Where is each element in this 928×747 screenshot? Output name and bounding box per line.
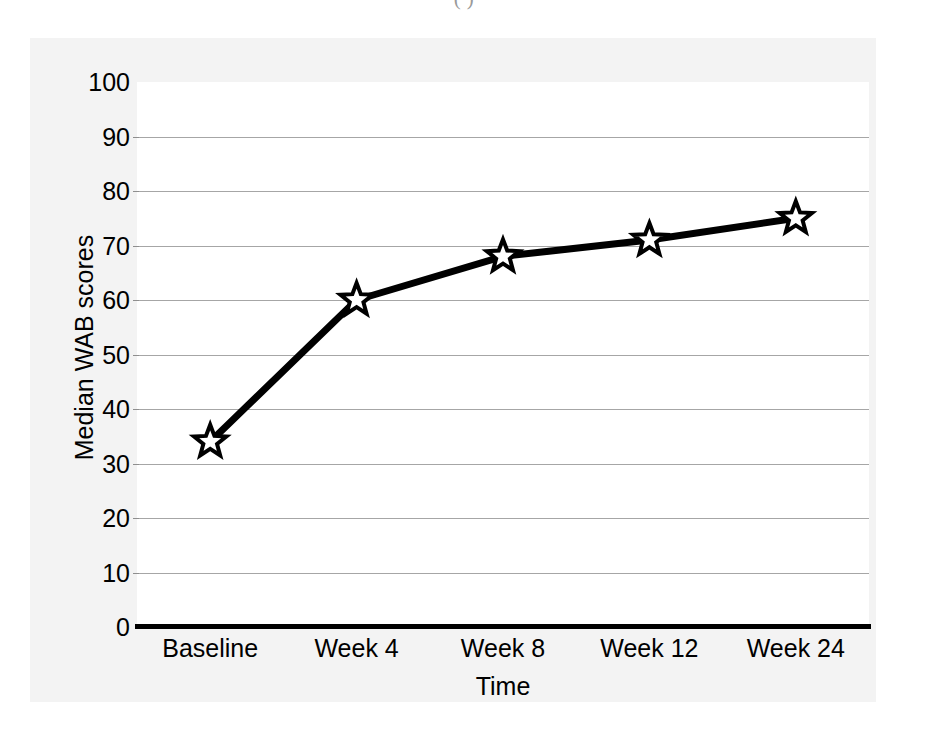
y-axis-tick-mark xyxy=(133,137,139,138)
gridline xyxy=(137,137,869,138)
gridline xyxy=(137,246,869,247)
y-axis-tick-mark xyxy=(133,573,139,574)
y-axis-tick-mark xyxy=(133,191,139,192)
y-axis-tick-label: 10 xyxy=(66,560,130,585)
x-axis-tick-labels: BaselineWeek 4Week 8Week 12Week 24 xyxy=(137,634,869,674)
y-axis-tick-label: 90 xyxy=(66,124,130,149)
gridline xyxy=(137,573,869,574)
chart-figure: 0102030405060708090100 BaselineWeek 4Wee… xyxy=(30,38,876,702)
gridline xyxy=(137,518,869,519)
y-axis-tick-mark xyxy=(133,355,139,356)
y-axis-title: Median WAB scores xyxy=(70,198,99,498)
gridline xyxy=(137,355,869,356)
x-axis-title: Time xyxy=(137,672,869,701)
gridline xyxy=(137,300,869,301)
y-axis-tick-label: 100 xyxy=(66,70,130,95)
x-axis-tick-label: Week 4 xyxy=(314,634,398,663)
gridline xyxy=(137,409,869,410)
x-axis-tick-label: Week 24 xyxy=(747,634,845,663)
gridline xyxy=(137,464,869,465)
figure-caption-fragment: ( ) xyxy=(0,0,928,11)
y-axis-tick-label: 20 xyxy=(66,506,130,531)
x-axis-line xyxy=(135,624,871,629)
gridline xyxy=(137,191,869,192)
y-axis-tick-mark xyxy=(133,246,139,247)
x-axis-tick-label: Week 8 xyxy=(461,634,545,663)
y-axis-tick-mark xyxy=(133,300,139,301)
y-axis-tick-mark xyxy=(133,518,139,519)
x-axis-tick-label: Baseline xyxy=(162,634,258,663)
gridlines xyxy=(137,82,869,627)
y-axis-tick-mark xyxy=(133,464,139,465)
y-axis-tick-label: 0 xyxy=(66,615,130,640)
plot-area xyxy=(137,82,869,627)
x-axis-tick-label: Week 12 xyxy=(600,634,698,663)
y-axis-tick-mark xyxy=(133,409,139,410)
